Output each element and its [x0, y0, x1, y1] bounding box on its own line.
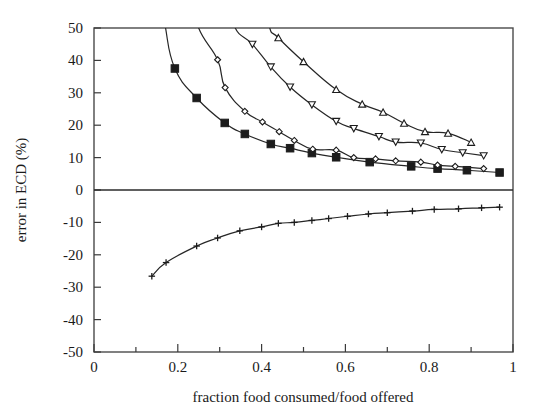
marker-plus [365, 211, 372, 218]
y-tick-label: 40 [68, 52, 83, 68]
series-5 [149, 204, 503, 280]
x-tick-label: 1 [509, 359, 517, 375]
marker-open-diamond [333, 147, 339, 153]
marker-open-diamond [276, 129, 282, 135]
marker-filled-square [241, 130, 249, 138]
marker-plus [309, 217, 316, 224]
marker-filled-square [407, 163, 415, 171]
marker-plus [478, 205, 485, 212]
marker-open-down-triangle [375, 134, 382, 140]
marker-plus [325, 215, 332, 222]
marker-filled-square [267, 140, 275, 148]
x-axis-tick-labels: 00.20.40.60.81 [90, 359, 517, 375]
error-in-ecd-line-chart: 50403020100-10-20-30-40-50 00.20.40.60.8… [0, 0, 538, 420]
series-line [160, 0, 499, 173]
y-tick-label: 10 [68, 150, 83, 166]
marker-plus [291, 219, 298, 226]
marker-plus [237, 228, 244, 235]
x-axis-ticks [94, 344, 513, 352]
y-tick-label: 30 [68, 85, 83, 101]
marker-plus [193, 243, 200, 250]
x-tick-label: 0.8 [420, 359, 439, 375]
marker-filled-square [332, 154, 340, 162]
marker-open-diamond [452, 163, 458, 169]
y-tick-label: -30 [63, 279, 83, 295]
marker-open-diamond [393, 158, 399, 164]
y-tick-label: 0 [76, 182, 84, 198]
marker-open-diamond [215, 57, 221, 63]
y-axis-tick-labels: 50403020100-10-20-30-40-50 [63, 20, 83, 360]
x-tick-label: 0.6 [336, 359, 355, 375]
y-axis-title: error in ECD (%) [13, 138, 30, 243]
marker-open-down-triangle [350, 125, 357, 131]
y-tick-label: -10 [63, 214, 83, 230]
x-tick-label: 0 [90, 359, 98, 375]
marker-open-up-triangle [401, 120, 408, 126]
marker-open-up-triangle [359, 101, 366, 107]
series-line [152, 207, 500, 276]
y-tick-label: 50 [68, 20, 83, 36]
y-tick-label: 20 [68, 117, 83, 133]
marker-plus [496, 204, 503, 211]
x-axis-title: fraction food consumed/food offered [193, 389, 414, 405]
marker-filled-square [286, 144, 294, 152]
marker-filled-square [221, 119, 229, 127]
marker-filled-square [171, 65, 179, 73]
marker-open-diamond [259, 119, 265, 125]
series-2 [193, 0, 487, 172]
marker-plus [258, 224, 265, 231]
marker-filled-square [366, 158, 374, 166]
y-tick-label: -50 [63, 344, 83, 360]
series-4 [264, 0, 474, 145]
marker-plus [275, 220, 282, 227]
marker-filled-square [193, 94, 201, 102]
y-tick-label: -40 [63, 312, 83, 328]
marker-open-diamond [291, 137, 297, 143]
x-tick-label: 0.2 [168, 359, 187, 375]
marker-open-down-triangle [333, 118, 340, 124]
marker-plus [214, 235, 221, 242]
marker-open-diamond [418, 159, 424, 165]
marker-plus [409, 208, 416, 215]
marker-open-diamond [222, 85, 228, 91]
marker-plus [344, 213, 351, 220]
x-tick-label: 0.4 [252, 359, 271, 375]
y-tick-label: -20 [63, 247, 83, 263]
series-line [264, 0, 471, 142]
marker-plus [431, 206, 438, 213]
marker-filled-square [496, 169, 504, 177]
marker-open-up-triangle [468, 139, 475, 145]
marker-plus [384, 209, 391, 216]
data-series-group [149, 0, 504, 279]
series-line [193, 0, 484, 169]
marker-plus [455, 206, 462, 213]
marker-open-up-triangle [380, 109, 387, 115]
chart-figure: 50403020100-10-20-30-40-50 00.20.40.60.8… [0, 0, 538, 420]
